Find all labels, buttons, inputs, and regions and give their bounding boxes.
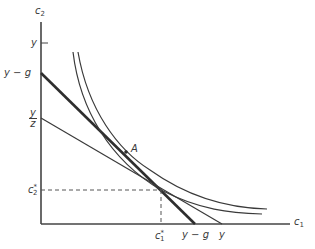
point-a-marker	[124, 150, 128, 154]
diagram-svg	[0, 0, 315, 249]
x-tick-label-c1-star: c*1	[155, 230, 164, 243]
y-axis-label-sub: 2	[41, 10, 45, 18]
c1-star-sub: 1	[160, 235, 164, 243]
y-tick-label-c2-star: c*2	[28, 184, 37, 197]
x-tick-label-y-minus-g: y − g	[182, 230, 209, 240]
x-axis-label-sub: 1	[300, 221, 304, 229]
budget-line-thin	[41, 118, 222, 224]
consumption-diagram: c2 y y − g y z c*2 c*1 y − g y c1 A	[0, 0, 315, 249]
budget-line-thick	[41, 73, 195, 224]
fraction-denominator: z	[29, 119, 37, 129]
y-tick-label-y-over-z: y z	[29, 108, 37, 129]
y-tick-label-y: y	[31, 38, 37, 48]
indifference-curve-inner	[73, 52, 262, 214]
x-tick-label-y: y	[219, 230, 225, 240]
y-axis-label: c2	[35, 6, 45, 18]
x-axis-label: c1	[294, 217, 304, 229]
indifference-curve-outer	[78, 52, 267, 209]
c2-star-sub: 2	[33, 189, 37, 197]
point-a-label: A	[131, 144, 138, 154]
y-tick-label-y-minus-g: y − g	[4, 68, 31, 78]
